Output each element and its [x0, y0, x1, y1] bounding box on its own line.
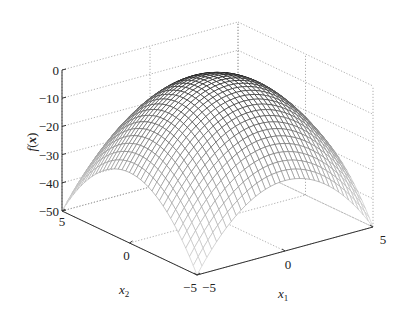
z-tick-label: 0 — [53, 63, 60, 78]
x2-axis-label: x2 — [118, 282, 129, 299]
z-tick-label: −10 — [39, 91, 59, 106]
x1-tick-label: 0 — [285, 257, 292, 272]
x2-tick-label: 5 — [59, 214, 66, 229]
surface-plot: 0−10−20−30−40−50−505−505 f(x) x2 x1 — [0, 0, 407, 318]
z-tick-label: −50 — [39, 204, 59, 219]
x1-tick-label: 5 — [380, 232, 387, 247]
surface-mesh — [62, 72, 373, 275]
x2-tick-label: −5 — [183, 280, 197, 295]
z-tick-label: −20 — [39, 119, 59, 134]
x2-tick-label: 0 — [123, 248, 130, 263]
z-tick-label: −40 — [39, 176, 59, 191]
x1-tick-label: −5 — [202, 280, 216, 295]
z-axis-label: f(x) — [24, 133, 39, 152]
x1-axis-label: x1 — [277, 286, 288, 303]
z-tick-label: −30 — [39, 148, 59, 163]
